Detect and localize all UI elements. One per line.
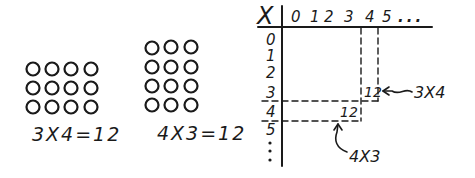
row-label-4: 4 [266,103,276,121]
row-label-1: 1 [266,47,276,65]
col-label-ellipsis: ... [398,8,424,26]
row-label-5: 5 [266,121,276,139]
row-labels: 0 1 2 3 4 5 [266,31,276,139]
table-axes [258,6,432,166]
left-dot-array [27,63,98,114]
dashed-guides [262,28,378,121]
row-continuation-dots [268,141,271,161]
annotation-4x3: 4X3 [349,147,380,166]
col-label-3: 3 [344,8,354,26]
left-equation: 3X4=12 [32,123,121,145]
row-label-2: 2 [266,64,276,82]
right-equation: 4X3=12 [157,122,246,144]
column-labels: 0 1 2 3 4 5 ... [291,8,424,26]
col-label-2: 2 [324,8,334,26]
cell-3-4-value: 12 [364,84,382,100]
arrow-3x4-icon [383,87,412,95]
col-label-0: 0 [291,8,301,26]
right-dot-array [146,41,198,112]
col-label-5: 5 [382,8,392,26]
multiplication-commutativity-diagram: 3X4=12 4X3=12 X 0 1 2 3 4 5 ... 0 1 2 3 … [0,0,475,178]
col-label-1: 1 [310,8,320,26]
row-label-3: 3 [266,84,276,102]
arrow-4x3-icon [334,124,347,152]
cell-4-3-value: 12 [340,104,358,120]
annotation-3x4: 3X4 [414,83,445,102]
times-symbol: X [255,2,274,30]
col-label-4: 4 [365,8,375,26]
